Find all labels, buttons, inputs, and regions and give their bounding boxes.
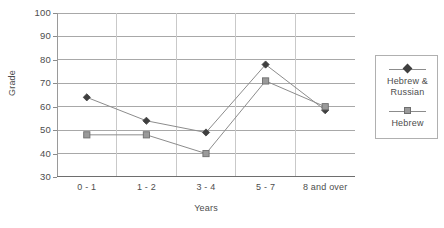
legend-entry[interactable]: Hebrew &Russian bbox=[376, 64, 439, 98]
x-axis-tick-label: 1 - 2 bbox=[117, 182, 177, 192]
line-chart: Grade 30405060708090100 0 - 11 - 23 - 45… bbox=[0, 0, 444, 228]
y-axis-tick-label: 50 bbox=[7, 124, 51, 135]
square-marker-icon bbox=[404, 107, 411, 114]
x-axis-tick-label: 5 - 7 bbox=[236, 182, 296, 192]
y-axis-tick-label: 80 bbox=[7, 54, 51, 65]
legend-label: Hebrew bbox=[376, 118, 439, 129]
y-axis-tick-label: 90 bbox=[7, 30, 51, 41]
plot-area bbox=[57, 13, 355, 177]
x-axis-title: Years bbox=[57, 203, 355, 213]
plot-svg bbox=[57, 13, 355, 177]
legend: Hebrew &RussianHebrew bbox=[375, 55, 438, 139]
legend-entry[interactable]: Hebrew bbox=[376, 106, 439, 129]
legend-sample bbox=[376, 106, 439, 116]
y-axis-tick-mark bbox=[53, 177, 57, 178]
legend-label-continued: Russian bbox=[376, 87, 439, 98]
diamond-marker-icon bbox=[403, 64, 413, 74]
y-axis-tick-label: 70 bbox=[7, 77, 51, 88]
y-axis-tick-label: 40 bbox=[7, 148, 51, 159]
x-axis-tick-label: 3 - 4 bbox=[176, 182, 236, 192]
legend-label: Hebrew & bbox=[376, 76, 439, 87]
y-axis-tick-label: 60 bbox=[7, 101, 51, 112]
x-axis-tick-label: 0 - 1 bbox=[57, 182, 117, 192]
y-axis-tick-label: 30 bbox=[7, 171, 51, 182]
y-axis-tick-label: 100 bbox=[7, 7, 51, 18]
x-axis-tick-label: 8 and over bbox=[295, 182, 355, 192]
legend-sample bbox=[376, 64, 439, 74]
